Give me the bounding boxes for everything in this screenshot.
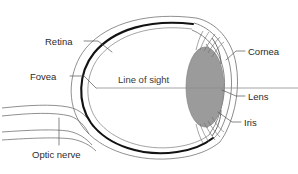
label-retina: Retina bbox=[45, 36, 73, 47]
optic-nerve-structure bbox=[2, 105, 96, 151]
retina-leader-line bbox=[84, 41, 112, 52]
cornea-leader-line bbox=[226, 51, 245, 60]
label-line-of-sight: Line of sight bbox=[118, 74, 170, 85]
label-lens: Lens bbox=[248, 91, 269, 102]
label-cornea: Cornea bbox=[248, 46, 280, 57]
eye-diagram-canvas: Retina Fovea Optic nerve Line of sight C… bbox=[0, 0, 298, 174]
label-optic-nerve: Optic nerve bbox=[32, 149, 81, 160]
optic-nerve-lower-inner bbox=[2, 130, 92, 145]
label-fovea: Fovea bbox=[30, 71, 57, 82]
label-iris: Iris bbox=[244, 117, 257, 128]
iris-leader-line bbox=[218, 112, 241, 122]
optic-nerve-upper-edge bbox=[2, 105, 93, 127]
lens-body bbox=[186, 47, 224, 127]
lens-leader-line bbox=[222, 90, 245, 96]
